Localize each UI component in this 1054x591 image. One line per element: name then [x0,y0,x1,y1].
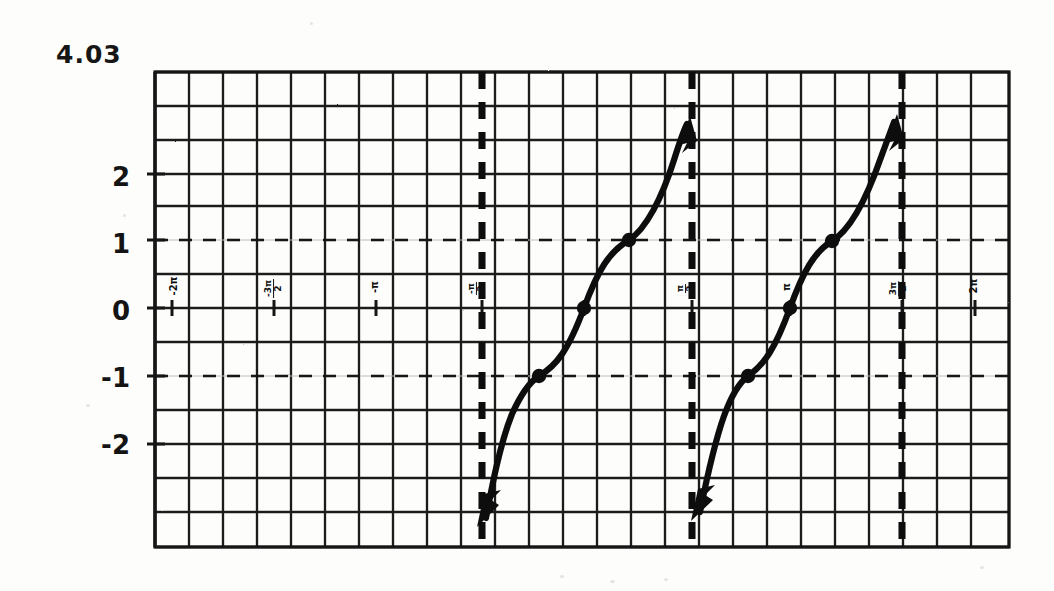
x-tick-numerator: π [676,284,685,293]
point-marker [783,301,797,315]
x-tick-label-neg-pi-over-2: -π 2 [467,282,486,295]
x-tick-label-3pi-over-2: 3π 2 [889,281,908,296]
x-tick-text: 2π [969,279,979,294]
x-tick-text: -π [370,281,380,293]
x-tick-label-pi-over-2: π 2 [676,284,695,293]
x-tick-numerator: -3π [264,279,273,298]
x-tick-label-neg-2pi: -2π [169,276,179,295]
tangent-branch-2 [700,122,894,512]
tangent-branch-1 [486,124,687,518]
x-tick-fraction: -3π 2 [264,279,283,298]
x-tick-denominator: 2 [476,282,486,295]
x-tick-label-2pi: 2π [969,279,979,294]
point-marker [577,301,591,315]
point-marker [532,369,546,383]
point-marker [825,234,839,248]
x-tick-text: -2π [169,276,179,295]
x-tick-denominator: 2 [685,284,695,293]
x-tick-numerator: 3π [889,281,898,296]
x-tick-numerator: -π [467,282,476,295]
point-marker [741,369,755,383]
figure-root: 4.03 2 1 0 -1 -2 [0,0,1054,591]
x-tick-denominator: 2 [273,279,283,298]
x-tick-label-neg-3pi-over-2: -3π 2 [264,279,283,298]
point-marker [622,233,636,247]
x-tick-label-pi: π [782,283,792,291]
x-tick-denominator: 2 [898,281,908,296]
x-tick-text: π [782,283,792,291]
x-tick-fraction: π 2 [676,284,695,293]
x-tick-fraction: 3π 2 [889,281,908,296]
x-tick-fraction: -π 2 [467,282,486,295]
x-tick-label-neg-pi: -π [370,281,380,293]
